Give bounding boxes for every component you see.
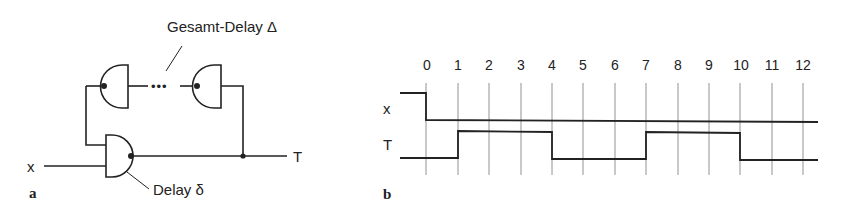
- tick-8: 8: [674, 57, 682, 73]
- total-delay-leader: [166, 46, 182, 71]
- tick-labels: 0 1 2 3 4 5 6 7 8 9 10 11 12: [423, 57, 811, 73]
- tick-0: 0: [423, 57, 431, 73]
- input-label-x: x: [27, 158, 35, 175]
- inversion-bubble-2: [194, 83, 200, 89]
- tick-9: 9: [705, 57, 713, 73]
- tick-10: 10: [733, 57, 749, 73]
- timing-grid: [426, 83, 803, 175]
- panel-label-a: a: [29, 185, 37, 201]
- tick-12: 12: [795, 57, 811, 73]
- junction-dot: [240, 153, 245, 158]
- tick-6: 6: [611, 57, 619, 73]
- gate-delay-leader: [127, 172, 149, 189]
- tick-11: 11: [765, 57, 780, 73]
- signal-label-x: x: [383, 100, 391, 117]
- circuit-diagram: [44, 46, 287, 189]
- signal-x-waveform: [400, 93, 818, 122]
- panel-label-b: b: [383, 186, 391, 202]
- tick-7: 7: [642, 57, 650, 73]
- tick-4: 4: [548, 57, 556, 73]
- tick-1: 1: [454, 57, 462, 73]
- gate-delay-label: Delay δ: [153, 181, 204, 198]
- signal-label-t: T: [383, 136, 392, 153]
- tick-2: 2: [485, 57, 493, 73]
- ellipsis-dots: •••: [151, 79, 168, 94]
- total-delay-label: Gesamt-Delay Δ: [167, 18, 277, 35]
- tick-3: 3: [517, 57, 525, 73]
- feedback-wire-right: [221, 86, 243, 156]
- inversion-bubble-1: [101, 83, 107, 89]
- signal-t-waveform: [400, 131, 818, 160]
- tick-5: 5: [579, 57, 587, 73]
- output-label-t: T: [293, 148, 302, 165]
